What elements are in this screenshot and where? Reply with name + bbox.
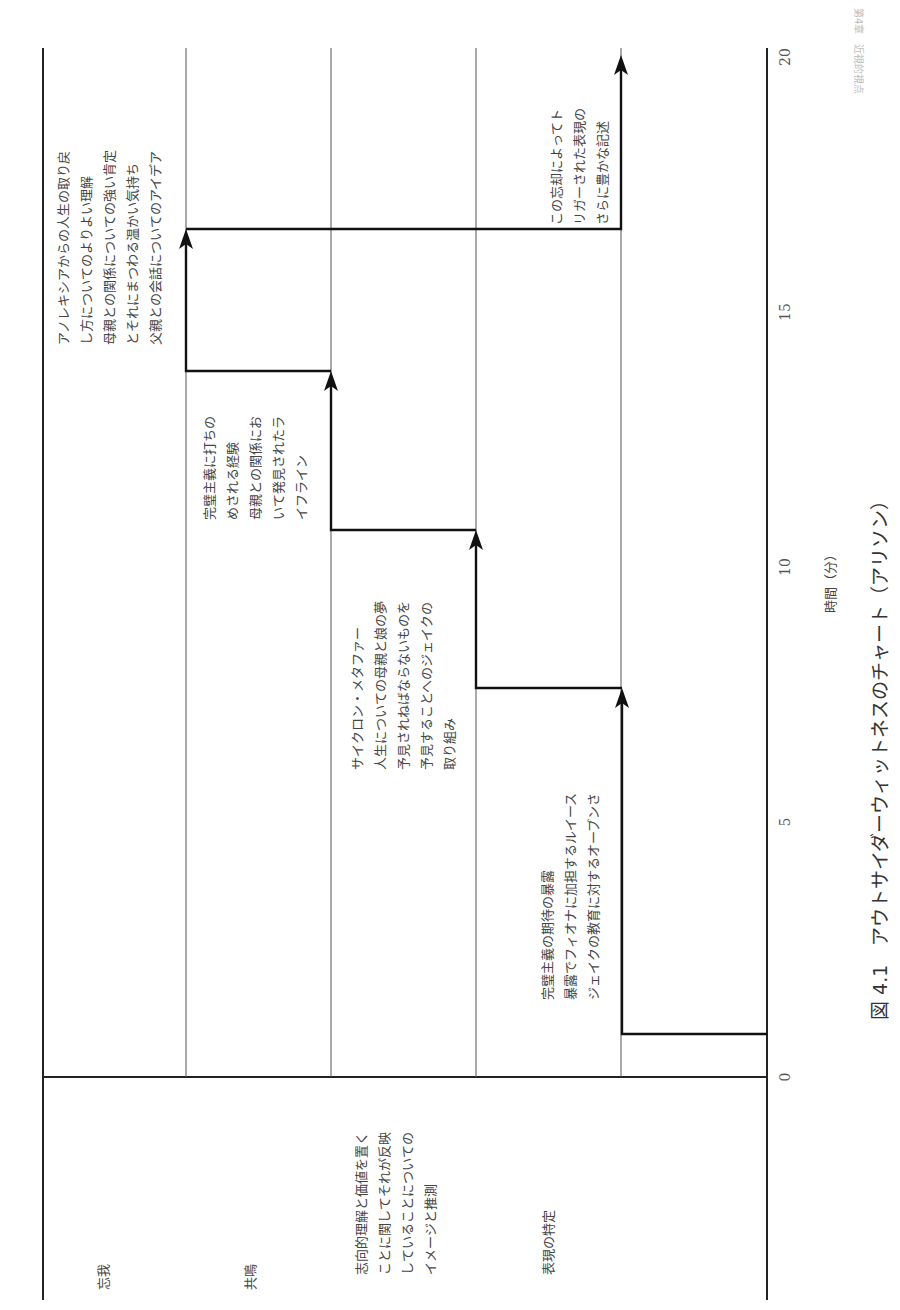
annotation-line: し方についてのよりよい理解	[79, 176, 94, 345]
annotation-line: 母親との関係についての強い肯定	[102, 150, 117, 345]
tick-15: 15	[777, 303, 793, 321]
tick-5: 5	[777, 818, 793, 827]
row-label-line: していることについての	[400, 1132, 415, 1275]
annotation-line: アノレキシアからの人生の取り戻	[56, 151, 71, 345]
annotation-line: 人生についての母親と娘の夢	[373, 601, 388, 770]
annotation-line: 暴露でフィオナに加担するルイース	[563, 793, 578, 1000]
figure-caption: 図 4.1 アウトサイダーウィットネスのチャート（アリソン）	[869, 491, 891, 1020]
axis-title: 時間（分）	[823, 548, 838, 613]
annotation-line: とそれにまつわる温かい気持ち	[125, 163, 140, 345]
step-path-3	[331, 383, 476, 530]
annotation-line: 予見されねばならないものを	[396, 601, 411, 770]
annotation-line: 完璧主義の期待の暴露	[540, 870, 555, 1000]
annotation-line: 予見することへのジェイクの	[419, 602, 434, 770]
row-label-line: イメージと推測	[423, 1184, 438, 1275]
annotation-line: ジェイクの教育に対するオープンさ	[586, 793, 601, 1000]
annotation-line: サイクロン・メタファー	[350, 627, 365, 770]
row-label-intentional: 志向的理解と価値を置く ことに関してそれが反映 していることについての イメージ…	[354, 1132, 438, 1275]
annotation-line: 父親との会話についてのアイデア	[148, 151, 163, 345]
annotation-expression-2: この忘却によってト リガーされた表現の さらに豊かな記述	[549, 108, 610, 225]
annotation-resonance: 完璧主義に打ちの めされる経験 母親との関係にお いて発見されたラ イフライン	[202, 416, 309, 520]
row-label-expression: 表現の特定	[541, 1210, 556, 1275]
row-label-line: 志向的理解と価値を置く	[354, 1132, 369, 1275]
step-path-4	[186, 241, 331, 371]
row-label-bougaa: 忘我	[96, 1264, 111, 1290]
row-label-line: ことに関してそれが反映	[377, 1132, 392, 1275]
chart-figure: 第4章 近視的視点 0 5 10 15 20 時間（分） 図 4.1 アウトサイ…	[0, 0, 900, 1310]
tick-10: 10	[777, 558, 793, 576]
annotation-expression-1: 完璧主義の期待の暴露 暴露でフィオナに加担するルイース ジェイクの教育に対するオ…	[540, 793, 601, 1000]
annotation-line: 母親との関係にお	[248, 416, 263, 520]
annotation-absorption: アノレキシアからの人生の取り戻 し方についてのよりよい理解 母親との関係について…	[56, 150, 163, 345]
row-label-kyoumei: 共鳴	[243, 1264, 258, 1290]
annotation-line: リガーされた表現の	[572, 108, 587, 225]
annotation-line: めされる経験	[225, 442, 240, 520]
annotation-line: 取り組み	[442, 718, 457, 770]
annotation-intentional: サイクロン・メタファー 人生についての母親と娘の夢 予見されねばならないものを …	[350, 601, 457, 770]
page-header: 第4章 近視的視点	[853, 8, 865, 94]
annotation-line: イフライン	[294, 455, 309, 520]
annotation-line: 完璧主義に打ちの	[202, 416, 217, 520]
step-path	[622, 700, 767, 1034]
tick-0: 0	[777, 1073, 793, 1082]
annotation-line: いて発見されたラ	[271, 416, 286, 520]
annotation-line: この忘却によってト	[549, 109, 564, 225]
annotation-line: さらに豊かな記述	[595, 121, 610, 225]
tick-20: 20	[777, 48, 793, 66]
step-path-2	[476, 542, 622, 688]
